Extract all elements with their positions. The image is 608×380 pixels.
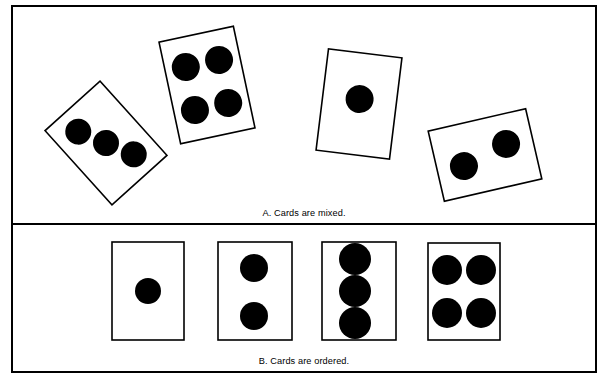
card-two-pips-rotated[interactable]: [428, 109, 542, 202]
card-pip: [240, 254, 268, 282]
panel-b-ordered-cards: B. Cards are ordered.: [112, 242, 500, 366]
card-four-pips-rotated[interactable]: [159, 26, 255, 144]
card-pip: [339, 307, 371, 339]
card-one-pip[interactable]: [112, 242, 184, 340]
card-pip: [240, 302, 268, 330]
card-pip: [466, 255, 496, 285]
cards-figure: A. Cards are mixed.: [0, 0, 608, 380]
card-two-pips[interactable]: [218, 242, 292, 340]
card-three-pips-rotated[interactable]: [45, 81, 167, 205]
card-pip: [432, 255, 462, 285]
card-one-pip-rotated[interactable]: [316, 49, 402, 159]
card-face: [159, 26, 255, 144]
panel-a-caption: A. Cards are mixed.: [262, 208, 345, 218]
card-pip: [432, 298, 462, 328]
card-pip: [339, 275, 371, 307]
panel-b-caption: B. Cards are ordered.: [259, 356, 349, 366]
panel-a-mixed-cards: A. Cards are mixed.: [45, 26, 542, 218]
card-three-pips[interactable]: [322, 242, 396, 340]
card-face: [428, 109, 542, 202]
card-pip: [466, 298, 496, 328]
card-pip: [135, 278, 161, 304]
figure-container: A. Cards are mixed.: [0, 0, 608, 380]
card-pip: [339, 243, 371, 275]
card-four-pips[interactable]: [428, 243, 500, 340]
